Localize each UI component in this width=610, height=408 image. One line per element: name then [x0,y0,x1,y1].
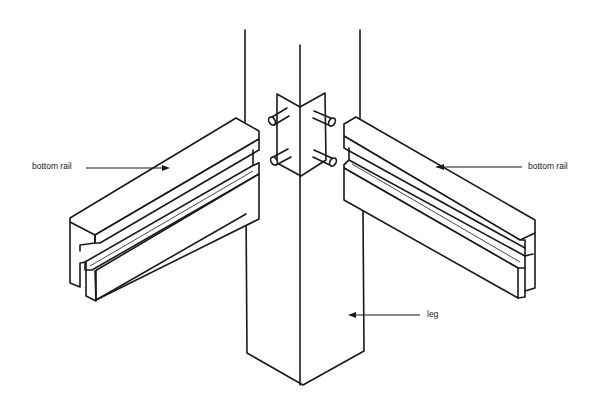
right-rail-label: bottom rail [528,161,568,171]
dowel-joint [267,93,337,176]
diagram-canvas: bottom rail bottom rail leg [0,0,610,408]
leg-arrow [348,312,420,318]
leg-label: leg [427,309,438,319]
left-bottom-rail [70,118,259,301]
leg [245,30,364,385]
right-rail-arrow [436,164,522,170]
right-bottom-rail [344,117,535,298]
joint-drawing [0,0,610,408]
left-rail-label: bottom rail [32,161,72,171]
